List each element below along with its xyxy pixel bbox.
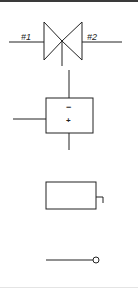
port-label-2: #2 xyxy=(87,33,97,42)
port-label-1: #1 xyxy=(21,33,31,42)
valve-right-triangle-icon xyxy=(62,22,82,60)
terminal-line-symbol[interactable] xyxy=(46,257,99,263)
valve-symbol[interactable] xyxy=(9,22,122,66)
terminal-box-symbol[interactable] xyxy=(46,182,103,209)
terminal-hook-icon xyxy=(96,197,103,203)
plus-sign: + xyxy=(66,117,71,125)
valve-left-triangle-icon xyxy=(44,22,62,60)
terminal-circle-icon xyxy=(93,257,99,263)
bottom-border xyxy=(0,287,138,288)
minus-sign: − xyxy=(66,103,71,112)
amplifier-box-symbol[interactable] xyxy=(13,70,93,150)
schematic-canvas xyxy=(0,0,138,289)
terminal-box xyxy=(46,182,96,209)
